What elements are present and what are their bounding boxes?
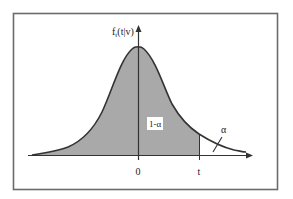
t-distribution-diagram: ft(t|v) 1-α α 0 t <box>0 0 293 199</box>
x-tick-label-t: t <box>198 166 201 177</box>
x-tick-label-0: 0 <box>136 166 141 177</box>
region-label-1-minus-alpha: 1-α <box>149 119 161 129</box>
region-label-alpha: α <box>221 124 227 135</box>
